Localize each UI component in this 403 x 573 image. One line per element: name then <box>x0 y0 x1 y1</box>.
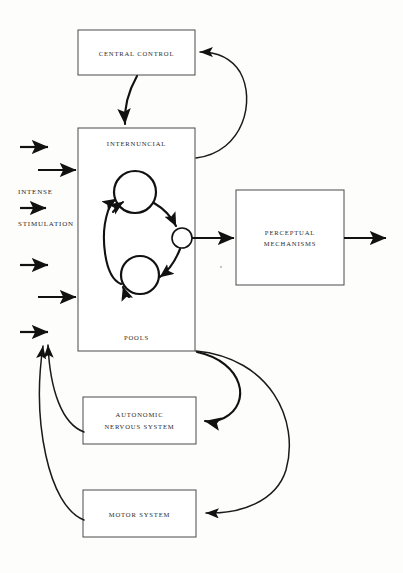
intense-label: INTENSE <box>18 188 53 196</box>
scan-speck <box>220 266 222 268</box>
stimulation-label: STIMULATION <box>18 220 74 228</box>
diagram-svg: CENTRAL CONTROL INTERNUNCIAL POOLS PERCE… <box>0 0 403 573</box>
pools-to-central-control-arrow <box>196 52 247 158</box>
autonomic-label-line2: NERVOUS SYSTEM <box>104 423 174 430</box>
autonomic-feedback-arrow <box>48 345 84 432</box>
internuncial-label: INTERNUNCIAL <box>107 140 166 147</box>
box-autonomic-nervous-system[interactable]: AUTONOMIC NERVOUS SYSTEM <box>83 397 196 444</box>
motor-system-label: MOTOR SYSTEM <box>109 511 171 518</box>
pools-label: POOLS <box>124 334 149 341</box>
autonomic-rect <box>83 397 196 444</box>
central-control-label: CENTRAL CONTROL <box>99 50 175 57</box>
pools-to-autonomic-arrow <box>197 352 240 422</box>
central-control-to-pools-arrow <box>125 76 137 124</box>
upper-pool-node[interactable] <box>114 171 156 213</box>
box-perceptual-mechanisms[interactable]: PERCEPTUAL MECHANISMS <box>236 190 344 285</box>
perceptual-label-line1: PERCEPTUAL <box>265 229 315 236</box>
pools-to-motor-arrow <box>196 351 289 513</box>
box-central-control[interactable]: CENTRAL CONTROL <box>78 30 195 75</box>
perceptual-mechanisms-rect <box>236 190 344 285</box>
perceptual-label-line2: MECHANISMS <box>264 240 316 247</box>
autonomic-label-line1: AUTONOMIC <box>116 411 164 418</box>
motor-feedback-arrow <box>40 346 84 520</box>
lower-pool-node[interactable] <box>121 256 159 294</box>
gate-node[interactable] <box>172 228 192 248</box>
diagram-canvas: CENTRAL CONTROL INTERNUNCIAL POOLS PERCE… <box>0 0 403 573</box>
box-motor-system[interactable]: MOTOR SYSTEM <box>83 490 196 537</box>
